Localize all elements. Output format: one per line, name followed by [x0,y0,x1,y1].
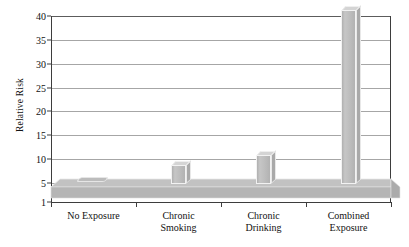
bar-combined-exposure [341,10,356,184]
bar-chronic-drinking [256,155,271,184]
y-tick-label-30: 30 [36,58,46,69]
y-tick-label-1: 1 [41,197,46,208]
plot-area: 1510152025303540 [51,16,391,202]
bar-front-face [256,155,271,184]
y-tick-mark-15 [47,135,51,136]
x-tick-mark-4 [391,202,392,207]
relative-risk-bar-chart: Relative Risk 1510152025303540 No Exposu… [0,0,409,247]
y-tick-mark-5 [47,182,51,183]
y-tick-mark-25 [47,87,51,88]
y-tick-label-10: 10 [36,154,46,165]
bar-side-face [356,5,361,184]
y-tick-label-5: 5 [41,177,46,188]
x-tick-label-combined-exposure: CombinedExposure [294,210,404,233]
bar-side-face [271,151,276,184]
bar-chronic-smoking [171,165,186,184]
bars-layer [51,16,391,202]
bar-front-face [341,10,356,184]
y-tick-mark-35 [47,39,51,40]
bar-no-exposure [76,177,110,182]
y-tick-label-40: 40 [36,11,46,22]
y-tick-mark-10 [47,159,51,160]
y-tick-label-20: 20 [36,106,46,117]
y-tick-label-15: 15 [36,130,46,141]
x-tick-mark-1 [136,202,137,207]
x-tick-mark-0 [51,202,52,207]
y-tick-label-25: 25 [36,82,46,93]
y-tick-mark-20 [47,111,51,112]
y-axis-title: Relative Risk [15,40,25,170]
x-axis: No ExposureChronicSmokingChronicDrinking… [51,202,391,246]
y-tick-mark-30 [47,63,51,64]
x-tick-mark-2 [221,202,222,207]
x-tick-mark-3 [306,202,307,207]
bar-front-face [171,165,186,184]
y-tick-mark-40 [47,16,51,17]
y-tick-label-35: 35 [36,34,46,45]
